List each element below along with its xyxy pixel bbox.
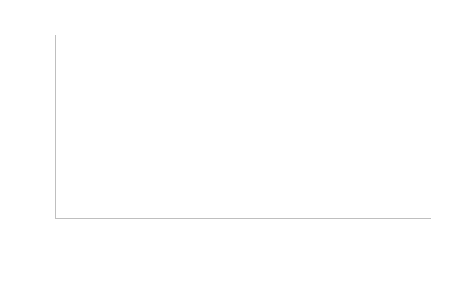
chart-figure (0, 0, 456, 297)
x-axis-labels (56, 220, 430, 297)
x-axis-line (55, 218, 431, 219)
plot-area (56, 35, 430, 218)
bar-series-container (56, 35, 430, 218)
